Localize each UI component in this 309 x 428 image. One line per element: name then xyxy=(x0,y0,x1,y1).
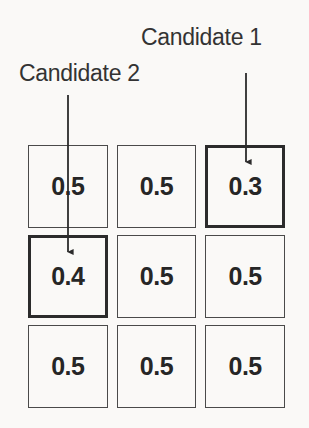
cell-value: 0.5 xyxy=(229,264,262,289)
candidate-1-label: Candidate 1 xyxy=(141,26,262,49)
cell-r2-c0: 0.5 xyxy=(28,325,108,408)
cell-value: 0.5 xyxy=(51,174,84,199)
cell-r0-c1: 0.5 xyxy=(117,145,197,228)
candidate-2-label: Candidate 2 xyxy=(19,62,140,85)
cell-r0-c2: 0.3 xyxy=(205,145,285,228)
cell-value: 0.5 xyxy=(140,174,173,199)
cell-r1-c0: 0.4 xyxy=(28,235,108,318)
cell-r0-c0: 0.5 xyxy=(28,145,108,228)
diagram-canvas: Candidate 1 Candidate 2 0.5 0.5 0.3 0.4 … xyxy=(0,0,309,428)
cell-value: 0.5 xyxy=(140,264,173,289)
cell-value: 0.5 xyxy=(140,354,173,379)
value-grid: 0.5 0.5 0.3 0.4 0.5 0.5 0.5 0.5 0.5 xyxy=(28,145,285,408)
cell-r1-c1: 0.5 xyxy=(117,235,197,318)
cell-value: 0.4 xyxy=(51,264,84,289)
cell-value: 0.5 xyxy=(51,354,84,379)
cell-r2-c2: 0.5 xyxy=(205,325,285,408)
cell-r2-c1: 0.5 xyxy=(117,325,197,408)
cell-r1-c2: 0.5 xyxy=(205,235,285,318)
cell-value: 0.5 xyxy=(229,354,262,379)
cell-value: 0.3 xyxy=(229,174,262,199)
